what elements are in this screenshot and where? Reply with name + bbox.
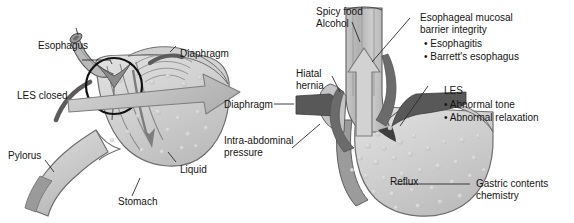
label-esophagus: Esophagus [38,40,88,52]
label-hiatal-hernia-line2: hernia [296,80,324,92]
label-diaphragm-right: Diaphragm [224,99,273,111]
callout-bullet-barretts: • Barrett's esophagus [424,51,519,63]
callout-heading-les: LES [444,85,463,97]
label-intra-abdominal-line2: pressure [224,147,263,159]
label-reflux: Reflux [390,176,418,188]
callout-bullet-abnormal-tone: • Abnormal tone [444,99,515,111]
leader-intra-abdominal [292,124,320,148]
label-liquid: Liquid [180,164,207,176]
label-intra-abdominal-line1: Intra-abdominal [224,135,293,147]
label-alcohol: Alcohol [316,18,349,30]
pylorus-antrum [28,130,108,216]
callout-heading-line2: barrier integrity [420,24,487,36]
label-spicy-food: Spicy food [316,6,363,18]
callout-bullet-abnormal-relaxation: • Abnormal relaxation [444,112,539,124]
figure-canvas: Esophagus LES closed Diaphragm Pylorus L… [0,0,574,223]
label-stomach: Stomach [118,196,157,208]
callout-gastric-line1: Gastric contents [476,178,548,190]
leader-stomach [132,178,140,196]
callout-heading-line1: Esophageal mucosal [420,12,513,24]
label-hiatal-hernia-line1: Hiatal [296,68,322,80]
label-diaphragm-left: Diaphragm [180,48,229,60]
label-les-closed: LES closed [17,90,68,102]
callout-gastric-line2: chemistry [476,190,519,202]
label-pylorus: Pylorus [8,150,41,162]
callout-bullet-esophagitis: • Esophagitis [424,38,482,50]
